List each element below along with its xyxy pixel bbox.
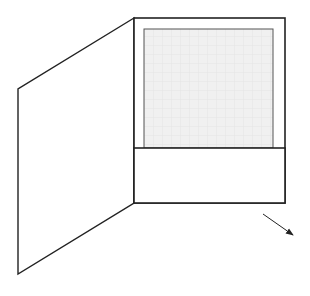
left-cover-panel (18, 18, 134, 274)
front-pocket (134, 148, 285, 203)
arrow-down-right-icon (263, 214, 293, 235)
folder-diagram-svg (0, 0, 310, 296)
folder-diagram (0, 0, 310, 296)
insert-sheet (144, 29, 273, 148)
